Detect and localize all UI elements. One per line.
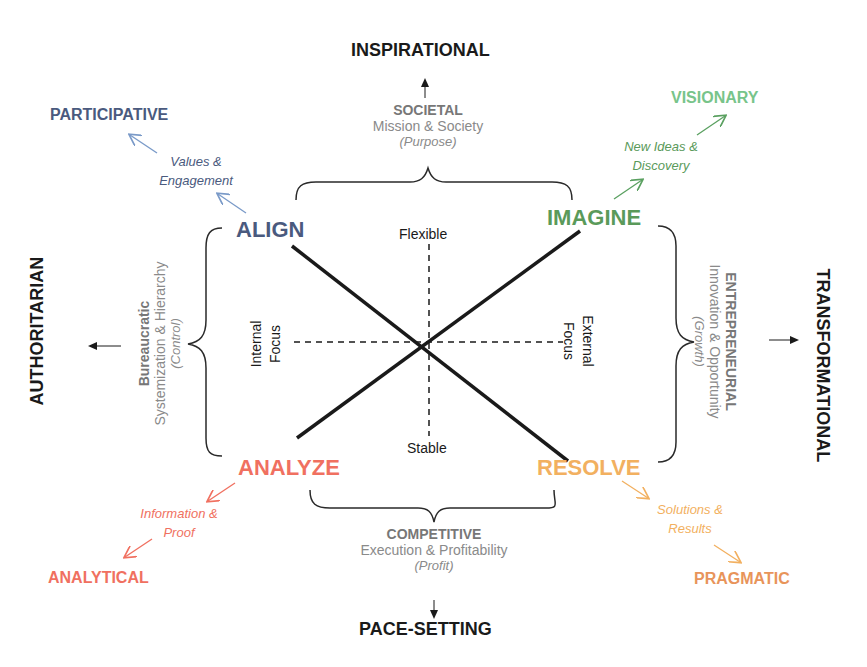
- brace-right: [658, 226, 694, 462]
- style-visionary: VISIONARY: [671, 89, 758, 107]
- culture-competitive: COMPETITIVE Execution & Profitability (P…: [334, 526, 534, 573]
- culture-subtitle: Mission & Society: [348, 118, 508, 134]
- culture-focus: (Control): [168, 244, 183, 444]
- culture-societal: SOCIETAL Mission & Society (Purpose): [348, 102, 508, 149]
- style-pragmatic: PRAGMATIC: [694, 570, 790, 588]
- quadrant-imagine: IMAGINE: [547, 205, 641, 231]
- brace-bottom: [310, 490, 555, 522]
- culture-title: Bureaucratic: [136, 244, 152, 444]
- style-inspirational: INSPIRATIONAL: [351, 40, 490, 61]
- axis-stable: Stable: [407, 440, 447, 456]
- culture-subtitle: Execution & Profitability: [334, 542, 534, 558]
- value-imagine: New Ideas & Discovery: [606, 137, 716, 175]
- quadrant-analyze: ANALYZE: [238, 455, 340, 481]
- style-participative: PARTICIPATIVE: [50, 106, 168, 124]
- style-pace-setting: PACE-SETTING: [359, 619, 492, 640]
- culture-title: COMPETITIVE: [334, 526, 534, 542]
- axis-external-focus: External Focus: [559, 303, 597, 379]
- culture-focus: (Profit): [334, 558, 534, 573]
- culture-entrepreneurial: ENTREPRENEURIAL Innovation & Opportunity…: [692, 242, 739, 442]
- quadrant-resolve: RESOLVE: [537, 455, 641, 481]
- diagonal-line-align-resolve: [292, 246, 568, 461]
- axis-internal-focus: Internal Focus: [247, 309, 285, 379]
- brace-left: [188, 228, 222, 456]
- culture-focus: (Growth): [692, 242, 707, 442]
- style-transformational: TRANSFORMATIONAL: [812, 269, 833, 419]
- axis-flexible: Flexible: [399, 226, 447, 242]
- culture-subtitle: Innovation & Opportunity: [707, 242, 723, 442]
- culture-focus: (Purpose): [348, 134, 508, 149]
- diagonal-line-imagine-analyze: [297, 231, 580, 438]
- style-authoritarian: AUTHORITARIAN: [27, 286, 48, 406]
- value-align: Values & Engagement: [146, 152, 246, 190]
- value-resolve: Solutions & Results: [640, 500, 740, 538]
- quadrant-align: ALIGN: [236, 217, 304, 243]
- culture-title: SOCIETAL: [348, 102, 508, 118]
- value-analyze: Information & Proof: [124, 504, 234, 542]
- style-analytical: ANALYTICAL: [48, 569, 149, 587]
- culture-subtitle: Systemization & Hierarchy: [152, 244, 168, 444]
- brace-top: [296, 168, 572, 200]
- culture-bureaucratic: Bureaucratic Systemization & Hierarchy (…: [136, 244, 183, 444]
- culture-title: ENTREPRENEURIAL: [723, 242, 739, 442]
